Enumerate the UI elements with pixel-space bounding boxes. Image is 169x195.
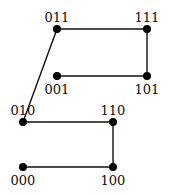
node-000 bbox=[19, 163, 27, 171]
node-110 bbox=[109, 118, 117, 126]
node-100 bbox=[109, 163, 117, 171]
node-label-010: 010 bbox=[11, 103, 36, 118]
edges bbox=[23, 29, 147, 167]
node-label-001: 001 bbox=[45, 82, 70, 97]
node-label-000: 000 bbox=[11, 173, 36, 188]
node-labels: 000100010110011111001101 bbox=[11, 10, 160, 188]
node-label-011: 011 bbox=[45, 10, 70, 25]
node-111 bbox=[143, 25, 151, 33]
node-label-111: 111 bbox=[135, 10, 160, 25]
node-010 bbox=[19, 118, 27, 126]
gray-code-path-diagram: 000100010110011111001101 bbox=[0, 0, 169, 195]
nodes bbox=[19, 25, 151, 171]
node-011 bbox=[53, 25, 61, 33]
node-label-100: 100 bbox=[101, 173, 126, 188]
node-001 bbox=[53, 72, 61, 80]
node-101 bbox=[143, 72, 151, 80]
node-label-110: 110 bbox=[101, 103, 126, 118]
node-label-101: 101 bbox=[135, 82, 160, 97]
